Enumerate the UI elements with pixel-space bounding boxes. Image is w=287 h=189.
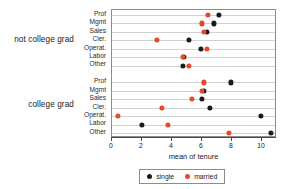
legend-label-married: married: [194, 173, 217, 180]
data-point-married: [201, 80, 206, 85]
category-label-prof: Prof: [64, 11, 106, 18]
category-label-cler: Cler.: [64, 104, 106, 111]
x-tick-label: 4: [169, 142, 173, 149]
category-label-labor: Labor: [64, 120, 106, 127]
legend-item-married: married: [185, 173, 217, 180]
category-label-mgmt: Mgmt: [64, 19, 106, 26]
data-point-married: [204, 46, 209, 51]
x-tick: [261, 137, 262, 141]
data-point-married: [199, 21, 204, 26]
x-tick-label: 8: [229, 142, 233, 149]
x-tick: [231, 137, 232, 141]
chart-root: not college grad college grad ProfMgmtSa…: [0, 0, 287, 189]
legend-dot-married-icon: [185, 174, 190, 179]
plot-panel: [111, 9, 276, 137]
x-tick: [201, 137, 202, 141]
x-tick: [171, 137, 172, 141]
category-label-operat: Operat.: [64, 45, 106, 52]
x-tick-label: 2: [139, 142, 143, 149]
data-point-married: [165, 122, 170, 127]
category-label-mgmt: Mgmt: [64, 87, 106, 94]
grid-line: [112, 66, 275, 67]
grid-line: [112, 108, 275, 109]
data-point-married: [115, 114, 120, 119]
grid-line: [112, 23, 275, 24]
x-tick: [111, 137, 112, 141]
data-point-single: [228, 80, 233, 85]
data-point-married: [159, 105, 164, 110]
x-tick-label: 10: [257, 142, 265, 149]
x-tick-label: 0: [109, 142, 113, 149]
grid-line: [112, 32, 275, 33]
x-tick: [141, 137, 142, 141]
grid-line: [112, 57, 275, 58]
category-label-sales: Sales: [64, 95, 106, 102]
data-point-single: [180, 63, 185, 68]
grid-line: [112, 40, 275, 41]
data-point-single: [186, 38, 191, 43]
data-point-married: [154, 38, 159, 43]
legend-dot-single-icon: [147, 174, 152, 179]
data-point-single: [139, 122, 144, 127]
category-label-prof: Prof: [64, 78, 106, 85]
data-point-single: [211, 21, 216, 26]
x-axis-line: [111, 137, 276, 138]
x-axis-title: mean of tenure: [111, 152, 276, 161]
data-point-married: [205, 12, 210, 17]
chart-legend: single married: [139, 169, 225, 184]
data-point-single: [198, 46, 203, 51]
data-point-single: [216, 12, 221, 17]
category-label-other: Other: [64, 129, 106, 136]
category-label-column: ProfMgmtSalesCler.Operat.LaborOtherProfM…: [62, 0, 106, 189]
legend-item-single: single: [147, 173, 174, 180]
data-point-single: [268, 130, 273, 135]
grid-line: [112, 116, 275, 117]
data-point-single: [207, 105, 212, 110]
data-point-married: [226, 130, 231, 135]
category-label-other: Other: [64, 61, 106, 68]
grid-line: [112, 133, 275, 134]
category-label-cler: Cler.: [64, 36, 106, 43]
category-label-labor: Labor: [64, 53, 106, 60]
data-point-married: [189, 97, 194, 102]
data-point-single: [258, 114, 263, 119]
category-label-operat: Operat.: [64, 112, 106, 119]
data-point-married: [186, 63, 191, 68]
legend-label-single: single: [156, 173, 174, 180]
grid-line: [112, 15, 275, 16]
grid-line: [112, 49, 275, 50]
grid-line: [112, 125, 275, 126]
grid-line: [112, 91, 275, 92]
category-label-sales: Sales: [64, 28, 106, 35]
x-tick-label: 6: [199, 142, 203, 149]
grid-line: [112, 82, 275, 83]
data-point-single: [199, 97, 204, 102]
